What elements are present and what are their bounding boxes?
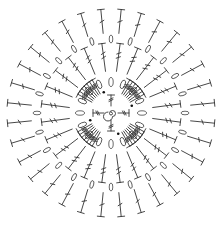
chain-space-outer [127,180,133,189]
chain-space-outer [178,129,187,135]
treble-stitch [150,83,177,97]
center-stitch [108,95,115,106]
outer-stitch [182,151,205,165]
magic-ring-icon [104,111,116,121]
outer-stitch [134,12,144,36]
treble-stitch [116,43,123,71]
treble-stitch [144,68,168,88]
outer-stitch [97,193,104,217]
slip-stitch-dot [117,132,120,135]
chain-space-outer [89,37,95,46]
outer-stitch [191,120,215,127]
outer-stitch [97,9,104,33]
crochet-chart [0,0,222,226]
chain-space [76,111,85,115]
outer-stitch [118,9,125,33]
chain-space-outer [178,91,187,97]
outer-stitch [182,61,205,75]
chain-space-outer [109,35,113,43]
outer-stitch [42,175,60,196]
outer-stitch [18,61,41,75]
outer-stitch [118,193,125,217]
center-stitch [108,120,115,131]
outer-stitch [173,44,194,62]
outer-stitch [7,120,31,127]
outer-stitch [59,20,73,43]
treble-stitch [53,68,77,88]
treble-stitch [81,47,95,74]
chain-space-outer [127,37,133,46]
chart-layer [7,9,215,217]
chain-space-outer [55,161,63,169]
treble-stitch [127,152,141,179]
treble-stitch [45,83,72,97]
outer-stitch [59,184,73,207]
treble-stitch [66,146,86,170]
center-stitch [118,110,129,117]
treble-stitch [98,43,105,71]
chain-space-outer [109,183,113,191]
slip-stitch-dot [89,119,92,122]
outer-stitch [28,44,49,62]
treble-stitch [66,55,86,79]
chain-space-outer [70,173,77,182]
outer-stitch [149,20,163,43]
treble-stitch [41,100,69,107]
chain-space-outer [144,173,151,182]
treble-stitch [137,55,157,79]
chain-space-outer [89,180,95,189]
treble-stitch [153,118,181,125]
chain-space-outer [35,91,44,97]
treble-stitch [53,139,77,159]
chain-space [109,78,113,87]
chain-space [109,140,113,149]
chain-space-outer [159,161,167,169]
chain-space-outer [159,57,167,65]
chain-space-outer [35,129,44,135]
chain-space-outer [171,72,180,79]
chain-space-outer [181,111,189,115]
treble-stitch [116,155,123,183]
treble-stitch [144,139,168,159]
outer-stitch [10,79,34,89]
treble-stitch [137,146,157,170]
chain-space-outer [144,45,151,54]
outer-stitch [188,79,212,89]
chain-space-outer [171,146,180,153]
treble-stitch [153,100,181,107]
outer-stitch [162,30,180,51]
outer-stitch [28,164,49,182]
chain-space-outer [33,111,41,115]
outer-stitch [134,190,144,214]
outer-stitch [191,99,215,106]
outer-stitch [173,164,194,182]
outer-stitch [162,175,180,196]
outer-stitch [77,190,87,214]
outer-stitch [42,30,60,51]
outer-stitch [10,136,34,146]
outer-stitch [7,99,31,106]
chain-space [138,111,147,115]
slip-stitch-dot [130,104,133,107]
treble-stitch [150,129,177,143]
outer-stitch [18,151,41,165]
outer-stitch [188,136,212,146]
treble-stitch [41,118,69,125]
slip-stitch-dot [102,91,105,94]
treble-stitch [127,47,141,74]
treble-stitch [81,152,95,179]
chain-space-outer [43,72,52,79]
outer-stitch [77,12,87,36]
outer-stitch [149,184,163,207]
chain-space-outer [70,45,77,54]
chain-space-outer [43,146,52,153]
chain-space-outer [55,57,63,65]
treble-stitch [45,129,72,143]
center-stitch [93,110,104,117]
treble-stitch [98,155,105,183]
